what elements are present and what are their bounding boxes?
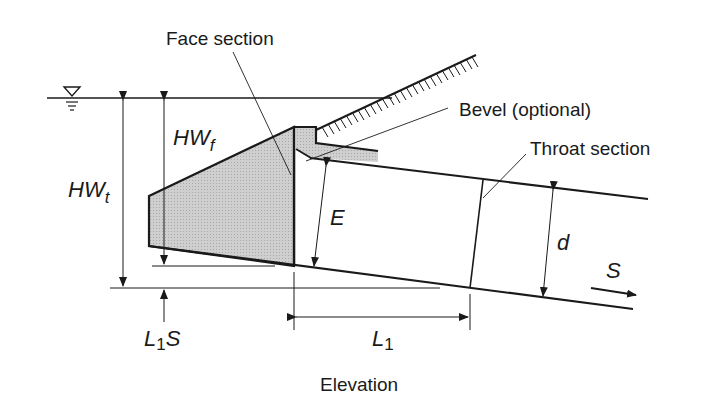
hw-t-label: HWt bbox=[68, 177, 111, 207]
elevation-title: Elevation bbox=[320, 374, 398, 395]
barrel-invert-line bbox=[149, 246, 633, 309]
throat-section-leader bbox=[483, 154, 526, 198]
headwall-bevel bbox=[294, 127, 378, 266]
bevel-label: Bevel (optional) bbox=[459, 99, 591, 120]
hw-f-label: HWf bbox=[173, 125, 217, 155]
face-section-label: Face section bbox=[166, 28, 274, 49]
l1-label: L1 bbox=[372, 326, 394, 354]
barrel-top-line bbox=[310, 158, 648, 199]
culvert-elevation-diagram: Face section Bevel (optional) Throat sec… bbox=[0, 0, 714, 415]
wingwall bbox=[149, 127, 294, 266]
e-dimension bbox=[314, 166, 326, 266]
e-label: E bbox=[330, 205, 345, 230]
embankment-slope bbox=[316, 55, 478, 137]
throat-section-label: Throat section bbox=[530, 138, 650, 159]
l1s-label: L1S bbox=[144, 326, 181, 354]
slope-label: S bbox=[606, 258, 621, 283]
d-label: d bbox=[557, 230, 570, 255]
d-dimension bbox=[543, 190, 553, 296]
slope-arrow bbox=[591, 288, 636, 295]
throat-section-line bbox=[470, 180, 483, 288]
